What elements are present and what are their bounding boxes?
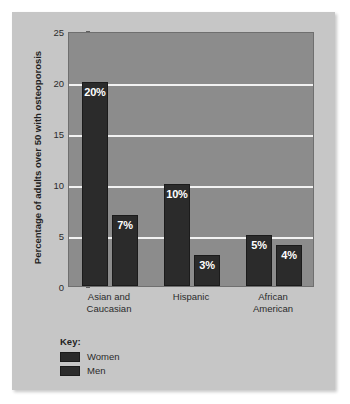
legend-entry: Women	[60, 351, 120, 362]
chart-card: Percentage of adults over 50 with osteop…	[12, 12, 335, 390]
legend-label: Men	[87, 365, 105, 376]
legend-label: Women	[87, 351, 120, 362]
bar-men-1: 3%	[194, 255, 220, 286]
x-axis-category-label: AfricanAmerican	[232, 291, 314, 315]
y-axis-tick-label: 15	[38, 129, 64, 140]
x-axis-category-line: American	[232, 303, 314, 315]
legend-swatch	[60, 366, 80, 376]
plot-area: 20%7%10%3%5%4%	[68, 32, 314, 287]
x-axis-category-line: Caucasian	[68, 303, 150, 315]
legend-entries: WomenMen	[60, 351, 120, 376]
bar-men-2: 4%	[276, 245, 302, 286]
x-axis-category-line: Hispanic	[150, 291, 232, 303]
y-axis-tick-label: 0	[38, 282, 64, 293]
x-axis-category-line: Asian and	[68, 291, 150, 303]
bar-women-0: 20%	[82, 82, 108, 286]
bar-men-0: 7%	[112, 215, 138, 286]
y-axis-tick-label: 20	[38, 78, 64, 89]
legend-entry: Men	[60, 365, 120, 376]
x-axis-labels: Asian andCaucasianHispanicAfricanAmerica…	[68, 291, 314, 327]
bar-women-1: 10%	[164, 184, 190, 286]
bar-value-label: 10%	[165, 188, 189, 200]
bar-women-2: 5%	[246, 235, 272, 286]
bar-value-label: 7%	[113, 219, 137, 231]
legend-title: Key:	[60, 336, 120, 347]
bar-value-label: 20%	[83, 86, 107, 98]
y-axis-tick-label: 25	[38, 27, 64, 38]
bar-value-label: 4%	[277, 249, 301, 261]
legend: Key: WomenMen	[60, 336, 120, 379]
y-axis-tick-label: 10	[38, 180, 64, 191]
legend-swatch	[60, 352, 80, 362]
bar-value-label: 5%	[247, 239, 271, 251]
x-axis-category-line: African	[232, 291, 314, 303]
y-axis-tick-label: 5	[38, 231, 64, 242]
bar-value-label: 3%	[195, 259, 219, 271]
y-axis-ticks: 0510152025	[34, 32, 64, 287]
x-axis-category-label: Asian andCaucasian	[68, 291, 150, 315]
x-axis-category-label: Hispanic	[150, 291, 232, 303]
